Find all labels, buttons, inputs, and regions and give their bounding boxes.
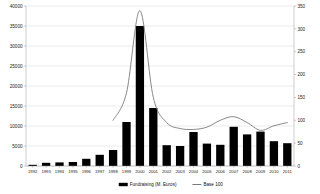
legend-swatch-fundraising: [119, 183, 128, 186]
bar: [149, 108, 157, 166]
secondary-y-axis-tick-label: 250: [298, 49, 306, 54]
y-axis-tick-label: 5000: [12, 144, 23, 149]
x-axis-tick-label: 1993: [41, 169, 51, 174]
x-axis-tick-label: 1998: [108, 169, 118, 174]
chart-canvas: 0500010000150002000025000300003500040000…: [0, 0, 320, 194]
legend-label: Base 100: [203, 182, 223, 187]
y-axis-tick-label: 15000: [10, 104, 23, 109]
y-axis-tick-label: 0: [20, 164, 23, 169]
bar: [176, 146, 184, 166]
bar: [163, 145, 171, 166]
secondary-y-axis-tick-label: 300: [298, 27, 306, 32]
chart-container: 0500010000150002000025000300003500040000…: [0, 0, 320, 194]
gridlines-group: [26, 6, 294, 166]
x-axis-tick-label: 2008: [242, 169, 252, 174]
bar: [230, 127, 238, 166]
x-axis-tick-label: 2006: [216, 169, 226, 174]
x-axis-tick-label: 2007: [229, 169, 239, 174]
secondary-y-axis-tick-label: 150: [298, 95, 306, 100]
y-axis-tick-label: 40000: [10, 4, 23, 9]
bar: [216, 145, 224, 166]
bar: [203, 144, 211, 166]
y-axis-labels-group: 0500010000150002000025000300003500040000: [10, 4, 26, 169]
bar: [270, 141, 278, 166]
x-axis-tick-label: 1995: [68, 169, 78, 174]
x-axis-tick-label: 1999: [122, 169, 132, 174]
bar: [42, 163, 50, 166]
x-axis-tick-label: 2010: [269, 169, 279, 174]
y-axis-tick-label: 10000: [10, 124, 23, 129]
x-axis-tick-label: 1997: [95, 169, 105, 174]
bar: [243, 134, 251, 166]
legend-group: Fundraising (M. Euros)Base 100: [119, 182, 224, 187]
secondary-y-axis-labels-group: 050100150200250300350: [294, 4, 306, 169]
secondary-y-axis-tick-label: 50: [298, 141, 304, 146]
secondary-y-axis-tick-label: 0: [298, 164, 301, 169]
legend-label: Fundraising (M. Euros): [130, 182, 177, 187]
bar: [82, 159, 90, 166]
x-axis-tick-label: 1994: [55, 169, 65, 174]
bar: [69, 162, 77, 166]
bar: [256, 132, 264, 166]
x-axis-tick-label: 2009: [256, 169, 266, 174]
y-axis-tick-label: 20000: [10, 84, 23, 89]
bar: [283, 143, 291, 166]
x-axis-labels-group: 1992199319941995199619971998199920002001…: [28, 166, 292, 174]
bar: [96, 155, 104, 166]
y-axis-tick-label: 30000: [10, 44, 23, 49]
combo-bar-line-chart: 0500010000150002000025000300003500040000…: [0, 0, 320, 194]
x-axis-tick-label: 2000: [135, 169, 145, 174]
x-axis-tick-label: 2005: [202, 169, 212, 174]
secondary-y-axis-tick-label: 100: [298, 118, 306, 123]
bar: [136, 26, 144, 166]
secondary-y-axis-tick-label: 200: [298, 72, 306, 77]
x-axis-tick-label: 2003: [175, 169, 185, 174]
bar: [189, 132, 197, 166]
x-axis-tick-label: 2002: [162, 169, 172, 174]
x-axis-tick-label: 2004: [189, 169, 199, 174]
y-axis-tick-label: 25000: [10, 64, 23, 69]
x-axis-tick-label: 1996: [82, 169, 92, 174]
y-axis-tick-label: 35000: [10, 24, 23, 29]
x-axis-tick-label: 2011: [283, 169, 293, 174]
secondary-y-axis-tick-label: 350: [298, 4, 306, 9]
bar: [109, 150, 117, 166]
bar: [55, 162, 63, 166]
bar: [122, 122, 130, 166]
x-axis-tick-label: 2001: [149, 169, 159, 174]
x-axis-tick-label: 1992: [28, 169, 38, 174]
bars-group: [29, 26, 292, 166]
